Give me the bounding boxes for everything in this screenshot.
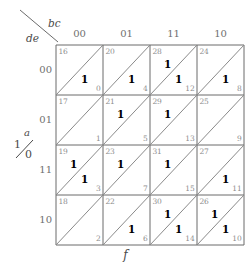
cell-value-lower: 1 (175, 224, 182, 235)
cell-index-upper: 30 (153, 198, 162, 206)
kmap-cell[interactable]: 2481 (197, 45, 244, 95)
kmap-cell[interactable]: 19311 (56, 145, 103, 195)
cell-index-lower: 13 (185, 135, 194, 143)
cell-index-lower: 2 (96, 235, 101, 243)
cell-value-upper: 1 (211, 209, 218, 220)
kmap-cell[interactable]: 171 (56, 95, 103, 145)
cell-value-upper: 1 (117, 159, 124, 170)
cell-index-lower: 9 (237, 135, 242, 143)
column-header: 10 (197, 28, 244, 39)
kmap-grid: 1601204128121124811712151291312591931123… (56, 45, 244, 245)
kmap-cell[interactable]: 29131 (150, 95, 197, 145)
cell-index-upper: 22 (106, 198, 115, 206)
cell-index-upper: 23 (106, 148, 115, 156)
cell-value-upper: 1 (70, 159, 77, 170)
cell-value-lower: 1 (175, 74, 182, 85)
cell-index-upper: 26 (200, 198, 209, 206)
cell-index-lower: 7 (143, 185, 148, 193)
kmap-cell[interactable]: 259 (197, 95, 244, 145)
row-header: 00 (26, 45, 52, 95)
cell-index-upper: 20 (106, 48, 115, 56)
cell-index-lower: 6 (143, 235, 148, 243)
cell-index-upper: 21 (106, 98, 115, 106)
kmap-cell[interactable]: 2151 (103, 95, 150, 145)
cell-index-lower: 1 (96, 135, 101, 143)
cell-value-lower: 1 (128, 74, 135, 85)
cell-index-upper: 16 (59, 48, 68, 56)
cell-value-upper: 1 (164, 59, 171, 70)
cell-value-lower: 1 (222, 74, 229, 85)
kmap-cell[interactable]: 281211 (150, 45, 197, 95)
cell-index-lower: 0 (96, 85, 101, 93)
cell-index-lower: 8 (237, 85, 242, 93)
column-header: 11 (150, 28, 197, 39)
cell-value-lower: 1 (222, 224, 229, 235)
cell-index-lower: 3 (96, 185, 101, 193)
kmap-cell[interactable]: 261011 (197, 195, 244, 245)
cell-index-upper: 25 (200, 98, 209, 106)
row-header: 10 (26, 195, 52, 245)
kmap-cell[interactable]: 2371 (103, 145, 150, 195)
cell-index-upper: 31 (153, 148, 162, 156)
karnaugh-map: bc de a 1 0 (0, 0, 251, 269)
cell-index-lower: 5 (143, 135, 148, 143)
cell-index-upper: 27 (200, 148, 209, 156)
cell-index-upper: 29 (153, 98, 162, 106)
row-variable-label: de (26, 32, 39, 44)
cell-value-lower: 1 (81, 74, 88, 85)
kmap-cell[interactable]: 301411 (150, 195, 197, 245)
cell-index-lower: 11 (232, 185, 241, 193)
row-header: 01 (26, 95, 52, 145)
column-header: 00 (56, 28, 103, 39)
cell-value-upper: 1 (164, 109, 171, 120)
column-header: 01 (103, 28, 150, 39)
cell-index-upper: 18 (59, 198, 68, 206)
cell-index-lower: 4 (143, 85, 148, 93)
kmap-cell[interactable]: 1601 (56, 45, 103, 95)
cell-index-upper: 24 (200, 48, 209, 56)
cell-index-lower: 15 (185, 185, 194, 193)
cell-index-upper: 19 (59, 148, 68, 156)
function-label: f (0, 248, 251, 262)
row-header: 11 (26, 145, 52, 195)
kmap-cell[interactable]: 182 (56, 195, 103, 245)
cell-index-lower: 14 (185, 235, 194, 243)
cell-value-lower: 1 (128, 224, 135, 235)
cell-value-upper: 1 (164, 209, 171, 220)
cell-value-lower: 1 (222, 174, 229, 185)
kmap-cell[interactable]: 2041 (103, 45, 150, 95)
cell-index-lower: 10 (232, 235, 241, 243)
kmap-cell[interactable]: 27111 (197, 145, 244, 195)
cell-value-lower: 1 (81, 174, 88, 185)
cell-value-upper: 1 (117, 109, 124, 120)
cell-index-upper: 28 (153, 48, 162, 56)
cell-index-upper: 17 (59, 98, 68, 106)
cell-value-upper: 1 (164, 159, 171, 170)
kmap-cell[interactable]: 2261 (103, 195, 150, 245)
kmap-cell[interactable]: 31151 (150, 145, 197, 195)
cell-index-lower: 12 (185, 85, 194, 93)
